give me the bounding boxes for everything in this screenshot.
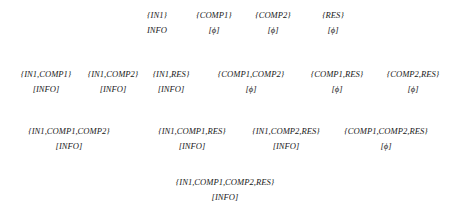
node-value-label: [INFO]	[153, 82, 190, 97]
node-set-label: {IN1,COMP2,RES}	[252, 124, 320, 139]
node-set-label: {IN1,COMP1}	[21, 67, 72, 82]
node-value-label: [INFO]	[252, 139, 320, 154]
node-set-label: {COMP1,COMP2,RES}	[344, 124, 427, 139]
node-in1-comp2: {IN1,COMP2} [INFO]	[88, 67, 139, 97]
node-set-label: {IN1}	[147, 8, 167, 23]
node-set-label: {IN1,COMP1,COMP2,RES}	[176, 175, 274, 190]
node-in1-comp1: {IN1,COMP1} [INFO]	[21, 67, 72, 97]
node-set-label: {COMP1,COMP2}	[218, 67, 284, 82]
node-value-label: [ϕ]	[387, 82, 439, 97]
node-in1-comp1-comp2-res: {IN1,COMP1,COMP2,RES} [INFO]	[176, 175, 274, 205]
node-comp2: {COMP2} [ϕ]	[255, 8, 291, 38]
node-in1-comp1-res: {IN1,COMP1,RES} [INFO]	[158, 124, 226, 154]
node-set-label: {IN1,COMP1,COMP2}	[28, 124, 109, 139]
node-value-label: [INFO]	[28, 139, 109, 154]
node-value-label: [INFO]	[88, 82, 139, 97]
node-comp2-res: {COMP2,RES} [ϕ]	[387, 67, 439, 97]
node-value-label: [ϕ]	[322, 23, 344, 38]
node-set-label: {COMP1}	[196, 8, 232, 23]
node-set-label: {COMP2}	[255, 8, 291, 23]
node-set-label: {COMP2,RES}	[387, 67, 439, 82]
node-value-label: [INFO]	[176, 190, 274, 205]
node-value-label: [INFO]	[158, 139, 226, 154]
node-comp1: {COMP1} [ϕ]	[196, 8, 232, 38]
node-set-label: {IN1,COMP2}	[88, 67, 139, 82]
node-value-label: [ϕ]	[218, 82, 284, 97]
node-set-label: {IN1,RES}	[153, 67, 190, 82]
node-res: {RES} [ϕ]	[322, 8, 344, 38]
node-value-label: INFO	[147, 23, 167, 38]
node-value-label: [ϕ]	[255, 23, 291, 38]
node-in1-comp2-res: {IN1,COMP2,RES} [INFO]	[252, 124, 320, 154]
node-set-label: {RES}	[322, 8, 344, 23]
node-value-label: [ϕ]	[311, 82, 363, 97]
node-set-label: {COMP1,RES}	[311, 67, 363, 82]
node-comp1-comp2: {COMP1,COMP2} [ϕ]	[218, 67, 284, 97]
node-in1: {IN1} INFO	[147, 8, 167, 38]
node-in1-res: {IN1,RES} [INFO]	[153, 67, 190, 97]
node-value-label: [ϕ]	[344, 139, 427, 154]
node-in1-comp1-comp2: {IN1,COMP1,COMP2} [INFO]	[28, 124, 109, 154]
node-value-label: [INFO]	[21, 82, 72, 97]
node-comp1-res: {COMP1,RES} [ϕ]	[311, 67, 363, 97]
node-comp1-comp2-res: {COMP1,COMP2,RES} [ϕ]	[344, 124, 427, 154]
node-set-label: {IN1,COMP1,RES}	[158, 124, 226, 139]
node-value-label: [ϕ]	[196, 23, 232, 38]
